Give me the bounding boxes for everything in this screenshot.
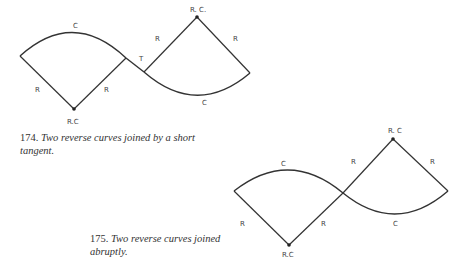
right-radius-1-line [343, 139, 393, 193]
right-radius-center-dot [195, 15, 199, 19]
caption-figure-174: 174. Two reverse curves joined by a shor… [20, 131, 210, 157]
caption-number: 175. [90, 233, 108, 244]
label-right-center: R. C. [190, 6, 206, 14]
left-arc [20, 32, 126, 58]
left-radius-center-dot [72, 107, 76, 111]
label-left-radius-2: R [104, 86, 109, 94]
label-left-arc: C [73, 22, 78, 30]
right-arc [343, 191, 448, 214]
label-right-radius-2: R [430, 158, 435, 166]
caption-figure-175: 175. Two reverse curves joined abruptly. [90, 232, 240, 258]
right-radius-1-line [144, 17, 197, 72]
right-arc [144, 72, 250, 95]
label-right-center: R. C [388, 127, 402, 135]
figure-174 [20, 17, 250, 109]
caption-text: Two reverse curves joined abruptly. [90, 233, 220, 257]
left-radius-2-line [74, 58, 126, 109]
label-left-center: R.C [282, 251, 294, 259]
label-tangent: T [138, 55, 144, 63]
label-right-arc: C [202, 99, 207, 107]
right-radius-2-line [393, 139, 448, 191]
right-radius-2-line [197, 17, 250, 73]
label-left-radius-2: R [321, 220, 326, 228]
label-right-radius-2: R [233, 35, 238, 43]
label-right-arc: C [393, 220, 398, 228]
right-radius-center-dot [391, 137, 395, 141]
left-radius-2-line [289, 193, 343, 245]
label-right-radius-1: R [351, 158, 356, 166]
caption-number: 174. [20, 132, 38, 143]
label-right-radius-1: R [155, 35, 160, 43]
label-left-radius-1: R [35, 86, 40, 94]
label-left-center: R.C [67, 118, 79, 126]
figure-175 [234, 139, 448, 245]
left-radius-center-dot [287, 243, 291, 247]
left-radius-1-line [20, 56, 74, 109]
left-arc [234, 170, 343, 193]
label-left-radius-1: R [240, 220, 245, 228]
label-left-arc: C [281, 160, 286, 168]
caption-text: Two reverse curves joined by a short tan… [20, 132, 195, 156]
left-radius-1-line [234, 191, 289, 245]
